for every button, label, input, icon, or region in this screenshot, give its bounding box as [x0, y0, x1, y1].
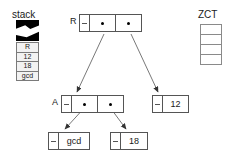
cons-cell-r-tag: [80, 15, 90, 31]
zct-row: [200, 44, 222, 54]
cons-cell-eighteen-tag: [111, 133, 121, 149]
stack-cell: 18: [16, 61, 39, 71]
cons-cell-r: [79, 14, 142, 32]
node-label-a: A: [52, 98, 58, 107]
zct-row: [200, 34, 222, 44]
diagram-canvas: stack R 12 18 gcd ZCT R A 12 gcd: [0, 0, 233, 163]
zct-row: [200, 54, 222, 65]
cons-cell-eighteen: 18: [110, 132, 148, 150]
stack-label: stack: [12, 10, 35, 19]
zct-table: [200, 24, 222, 65]
cons-cell-gcd-tag: [49, 133, 59, 149]
stack-cell: gcd: [16, 71, 39, 82]
zct-row: [200, 24, 222, 34]
edge-r-cdr-to-12: [131, 34, 158, 92]
cons-cell-a: [61, 95, 124, 113]
cons-cell-a-car: [72, 96, 98, 112]
cons-cell-gcd-value: gcd: [59, 133, 89, 149]
cons-cell-r-car: [90, 15, 116, 31]
cons-cell-eighteen-value: 18: [121, 133, 147, 149]
cons-cell-twelve-tag: [153, 96, 163, 112]
cons-cell-gcd: gcd: [48, 132, 90, 150]
node-label-r: R: [70, 17, 77, 26]
zct-label: ZCT: [198, 10, 217, 19]
cons-cell-a-cdr: [98, 96, 123, 112]
cons-cell-twelve: 12: [152, 95, 189, 113]
stack-cell: R: [16, 42, 39, 52]
cons-cell-twelve-value: 12: [163, 96, 188, 112]
cons-cell-r-cdr: [116, 15, 141, 31]
stack-column: R 12 18 gcd: [16, 42, 39, 81]
stack-cell: 12: [16, 52, 39, 62]
cons-cell-a-tag: [62, 96, 72, 112]
edge-r-car-to-a: [77, 34, 104, 92]
